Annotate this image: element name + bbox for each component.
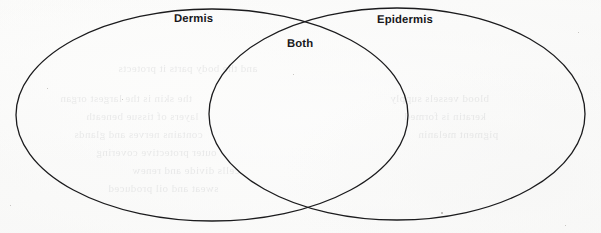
- venn-diagram: [0, 0, 601, 233]
- venn-label-epidermis: Epidermis: [377, 14, 433, 26]
- venn-label-dermis: Dermis: [174, 13, 213, 25]
- venn-circle-dermis: [16, 9, 408, 221]
- worksheet-page: and the body parts it protectsthe skin i…: [0, 0, 601, 233]
- venn-circle-epidermis: [209, 8, 585, 220]
- venn-label-both: Both: [287, 38, 313, 50]
